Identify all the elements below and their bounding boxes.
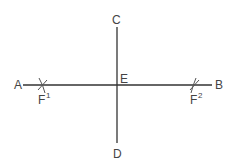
label-e: E: [120, 72, 128, 86]
label-f2: F: [190, 93, 197, 107]
label-f1-superscript: 1: [46, 91, 51, 100]
label-c: C: [112, 13, 121, 27]
diagram-canvas: A B C D E F 1 F 2: [0, 0, 234, 165]
construction-figure: A B C D E F 1 F 2: [0, 0, 234, 165]
label-b: B: [215, 78, 223, 92]
label-f2-superscript: 2: [198, 91, 203, 100]
label-f1: F: [38, 93, 45, 107]
label-a: A: [14, 78, 22, 92]
label-d: D: [113, 147, 122, 161]
